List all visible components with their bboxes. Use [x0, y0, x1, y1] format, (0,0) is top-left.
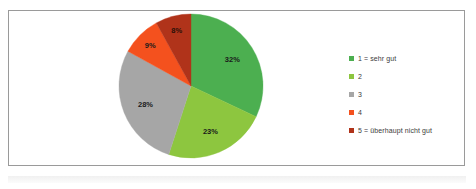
legend-item[interactable]: 4 — [349, 103, 469, 121]
legend-item-label: 3 — [358, 91, 362, 98]
pie-chart: 32%23%28%9%8% — [116, 8, 266, 168]
legend-item[interactable]: 2 — [349, 67, 469, 85]
legend-swatch-icon — [349, 128, 354, 133]
pie-slice-label: 32% — [225, 55, 240, 64]
legend-swatch-icon — [349, 110, 354, 115]
pie-chart-svg: 32%23%28%9%8% — [116, 8, 266, 168]
legend: 1 = sehr gut2345 = überhaupt nicht gut — [349, 49, 469, 139]
legend-item-label: 5 = überhaupt nicht gut — [358, 127, 432, 134]
legend-item[interactable]: 3 — [349, 85, 469, 103]
pie-slice-label: 8% — [171, 26, 182, 35]
plot-area: 32%23%28%9%8% 1 = sehr gut2345 = überhau… — [9, 11, 464, 165]
pie-slice-label: 28% — [138, 100, 153, 109]
figure-container: 32%23%28%9%8% 1 = sehr gut2345 = überhau… — [0, 0, 476, 189]
pie-slice-group — [119, 14, 263, 158]
legend-item-label: 2 — [358, 73, 362, 80]
legend-swatch-icon — [349, 74, 354, 79]
scan-artifact-band — [8, 176, 466, 183]
pie-slice-label: 23% — [203, 127, 218, 136]
legend-swatch-icon — [349, 92, 354, 97]
legend-item[interactable]: 5 = überhaupt nicht gut — [349, 121, 469, 139]
legend-swatch-icon — [349, 56, 354, 61]
pie-slice-label: 9% — [145, 41, 156, 50]
legend-item[interactable]: 1 = sehr gut — [349, 49, 469, 67]
legend-item-label: 1 = sehr gut — [358, 55, 396, 62]
chart-frame: 32%23%28%9%8% 1 = sehr gut2345 = überhau… — [8, 10, 465, 166]
legend-item-label: 4 — [358, 109, 362, 116]
